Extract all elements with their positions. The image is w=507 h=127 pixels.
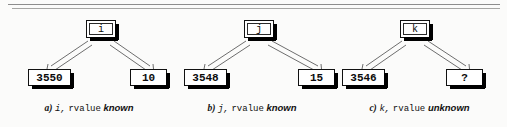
caption-keyword-c: rvalue [393,104,425,114]
lvalue-box-b: 3548 [184,69,227,86]
caption-c: c) k, rvalue unknown [332,102,507,114]
figure-canvas: i 3550 10 a) i, rvalue known j 3548 15 [0,0,507,127]
variable-name-box-a: i [86,20,116,38]
arrow-left-shaft [51,41,88,66]
arrow-right-shaft-2 [424,45,462,70]
arrow-right-shaft-2 [268,45,314,70]
caption-state-a: known [103,102,133,113]
arrow-right-shaft [272,41,318,66]
caption-variable-c: k, [379,104,390,114]
caption-a: a) i, rvalue known [4,102,174,114]
top-divider [0,0,507,14]
lvalue-box-c: 3546 [342,69,385,86]
arrow-right-shaft-2 [110,45,146,70]
arrow-left-shaft-2 [370,45,406,70]
arrow-right-shaft [114,41,150,66]
rvalue-box-c: ? [446,69,483,86]
rvalue-box-a: 10 [130,69,167,86]
rvalue-box-b: 15 [298,69,335,86]
divider-line-lower [12,8,500,9]
caption-variable-a: i, [55,104,66,114]
variable-name-label-b: j [256,24,262,35]
caption-state-c: unknown [428,102,470,113]
caption-variable-b: j, [218,104,229,114]
variable-name-label-a: i [98,24,104,35]
panel-c: k 3546 ? c) k, rvalue unknown [332,14,507,127]
panel-a: i 3550 10 a) i, rvalue known [4,14,174,127]
variable-name-box-c: k [400,20,430,38]
arrow-right-shaft [428,41,466,66]
caption-keyword-b: rvalue [231,104,263,114]
variable-name-label-c: k [412,24,418,35]
caption-b: b) j, rvalue known [172,102,332,114]
divider-line-upper [8,4,500,5]
caption-keyword-a: rvalue [68,104,100,114]
caption-state-b: known [266,102,296,113]
arrow-left-shaft [208,41,246,66]
arrow-left-shaft-2 [55,45,92,70]
arrow-left-shaft-2 [212,45,250,70]
caption-label-c: c) [369,103,376,113]
lvalue-box-a: 3550 [28,69,71,86]
variable-name-box-b: j [244,20,274,38]
arrow-left-shaft [366,41,402,66]
panel-b: j 3548 15 b) j, rvalue known [172,14,332,127]
